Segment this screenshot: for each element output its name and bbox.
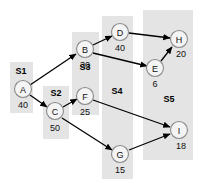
node-label-a: A xyxy=(20,85,26,95)
node-label-g: G xyxy=(116,150,123,160)
node-weight-h: 20 xyxy=(176,49,186,59)
stage-label-s5: S5 xyxy=(163,94,174,104)
node-weight-f: 25 xyxy=(80,107,90,117)
node-weight-d: 40 xyxy=(115,43,125,53)
node-weight-i: 18 xyxy=(176,141,186,151)
stage-label-s1: S1 xyxy=(15,66,26,76)
node-weight-g: 15 xyxy=(115,165,125,175)
stage-label-s4: S4 xyxy=(111,86,122,96)
dag-diagram: S1S2S3S4S5 A40C50B30F25D40G15H20E6I18 xyxy=(0,0,201,187)
node-label-e: E xyxy=(152,64,158,74)
node-weight-e: 6 xyxy=(152,79,157,89)
node-label-d: D xyxy=(117,28,124,38)
node-label-f: F xyxy=(82,92,88,102)
node-weight-a: 40 xyxy=(18,100,28,110)
node-weight-c: 50 xyxy=(50,123,60,133)
node-weight-b: 30 xyxy=(80,60,90,70)
edge-a-to-b xyxy=(30,54,76,85)
node-label-c: C xyxy=(52,107,59,117)
stage-band-s5 xyxy=(143,10,193,160)
node-label-h: H xyxy=(176,35,183,45)
node-label-i: I xyxy=(178,126,181,136)
stage-label-s2: S2 xyxy=(50,88,61,98)
node-label-b: B xyxy=(82,45,88,55)
graph-canvas: S1S2S3S4S5 A40C50B30F25D40G15H20E6I18 xyxy=(0,0,201,187)
